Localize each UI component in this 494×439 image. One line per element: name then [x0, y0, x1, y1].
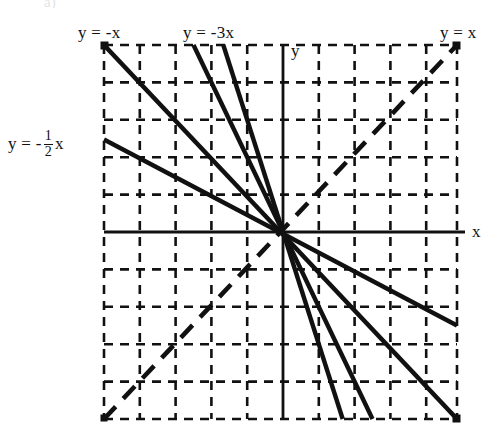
line-label-lead: y = -	[8, 134, 42, 153]
graph-figure: a)	[0, 0, 494, 439]
endpoint-marker	[101, 415, 108, 422]
line-label-tail: x	[55, 134, 64, 153]
coordinate-plane	[0, 0, 494, 439]
fraction-numerator: 1	[44, 129, 53, 144]
x-axis-label: x	[472, 223, 481, 240]
fraction-one-half: 12	[44, 129, 53, 159]
line-label-y-equals-neg-x: y = -x	[78, 24, 121, 41]
line-label-y-equals-neg-3x: y = -3x	[183, 24, 234, 41]
fraction-denominator: 2	[44, 144, 53, 160]
endpoint-marker	[453, 42, 461, 50]
line-label-y-equals-x: y = x	[440, 24, 477, 41]
line-label-y-equals-neg-half-x: y = -12x	[8, 130, 64, 160]
endpoint-marker	[453, 415, 461, 423]
endpoint-marker	[101, 42, 109, 50]
y-axis-label: y	[291, 42, 300, 59]
